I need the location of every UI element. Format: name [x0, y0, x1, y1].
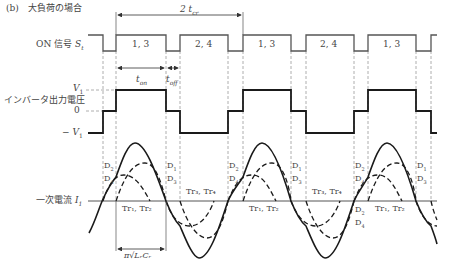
diode-label-d2d4: D2D4 — [229, 161, 239, 186]
transistor-label-tr3tr4: Tr₃, Tr₄ — [186, 188, 216, 196]
inverter-voltage-label: インバータ出力電圧 — [4, 96, 85, 105]
diode-label-d2d4: D2D4 — [104, 161, 114, 186]
segment-label-4: 2, 4 — [320, 40, 337, 49]
diode-label-d1d3: D1D3 — [167, 161, 177, 186]
on-signal-label: ON 信号 St — [36, 40, 84, 51]
figure-title: (b) 大負荷の場合 — [6, 4, 82, 13]
transistor-label-tr3tr4: Tr₃, Tr₄ — [312, 188, 342, 196]
diode-label-d1d3: D1D3 — [417, 161, 427, 186]
segment-label-3: 1, 3 — [258, 40, 275, 49]
primary-current-label: 一次電流 I1 — [36, 196, 82, 207]
period-label: 2 tcr — [180, 5, 198, 16]
inverter-voltage-trace — [88, 90, 437, 133]
diode-label-d2d4-lower: D2D4 — [355, 205, 365, 230]
resonance-period-label: π√LᵣCᵣ — [124, 252, 151, 260]
t-on-label: ton — [136, 75, 147, 86]
diode-label-d2d4: D2D4 — [355, 161, 365, 186]
t-off-label: toff — [166, 75, 178, 86]
transistor-label-tr1tr2: Tr₁, Tr₂ — [249, 205, 279, 213]
transistor-label-tr1tr2: Tr₁, Tr₂ — [122, 205, 152, 213]
zero-level-label: 0 — [74, 106, 80, 115]
v1-level-label: V1 — [73, 84, 83, 95]
neg-v1-level-label: − V1 — [62, 128, 83, 139]
diode-label-d1d3: D1D3 — [292, 161, 302, 186]
segment-label-5: 1, 3 — [383, 40, 400, 49]
segment-label-2: 2, 4 — [195, 40, 212, 49]
segment-label-1: 1, 3 — [132, 40, 149, 49]
transistor-label-tr1tr2: Tr₁, Tr₂ — [375, 205, 405, 213]
